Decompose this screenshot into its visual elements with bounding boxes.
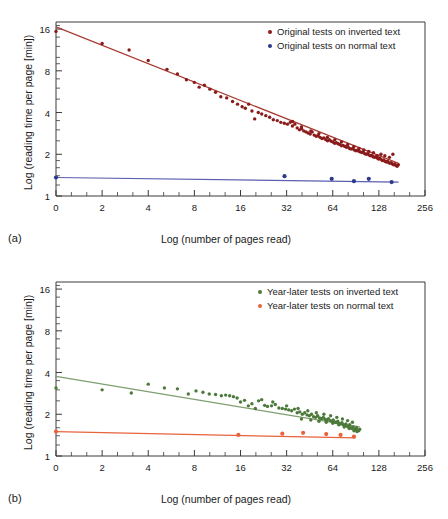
data-point <box>285 404 288 407</box>
legend-a: Original tests on inverted text Original… <box>268 25 400 53</box>
x-tick-label: 64 <box>327 462 338 473</box>
x-tick-label: 8 <box>192 462 197 473</box>
data-point <box>367 150 370 153</box>
panel-label-b: (b) <box>8 492 22 504</box>
data-point <box>203 83 206 86</box>
data-point <box>326 136 329 139</box>
data-point <box>254 407 257 410</box>
y-tick-label: 1 <box>45 451 50 462</box>
data-point <box>260 398 263 401</box>
data-point <box>376 154 379 157</box>
x-axis-title-b: Log (number of pages read) <box>36 493 416 505</box>
legend-marker-icon <box>268 30 272 34</box>
data-point <box>176 72 179 75</box>
data-point <box>283 122 286 125</box>
data-point <box>54 30 57 33</box>
data-point <box>351 421 354 424</box>
data-point <box>383 154 386 157</box>
data-point <box>214 91 217 94</box>
y-tick-label: 16 <box>39 24 50 35</box>
data-series <box>54 429 356 438</box>
data-point <box>357 147 360 150</box>
data-point <box>331 422 334 425</box>
data-point <box>338 433 342 437</box>
data-point <box>247 102 250 105</box>
data-point <box>330 177 334 181</box>
data-point <box>340 140 343 143</box>
data-point <box>301 431 305 435</box>
data-point <box>266 405 269 408</box>
legend-label: Year-later tests on normal text <box>267 299 393 313</box>
data-point <box>279 121 282 124</box>
data-point <box>224 393 227 396</box>
data-point <box>362 148 365 151</box>
data-point <box>127 48 130 51</box>
data-point <box>185 78 188 81</box>
y-tick-label: 8 <box>45 326 50 337</box>
y-tick-label: 1 <box>45 191 50 202</box>
data-point <box>293 407 296 410</box>
data-series <box>54 174 399 184</box>
data-point <box>260 112 263 115</box>
data-point <box>358 428 361 431</box>
data-point <box>220 394 223 397</box>
figure-container: 0248163264128256168421 Log (reading time… <box>0 0 448 519</box>
data-point <box>243 399 246 402</box>
data-point <box>346 419 349 422</box>
x-tick-label: 128 <box>371 462 387 473</box>
data-point <box>348 427 351 430</box>
data-point <box>287 408 290 411</box>
data-point <box>315 411 318 414</box>
x-tick-label: 4 <box>146 202 151 213</box>
data-point <box>54 386 57 389</box>
data-point <box>271 400 274 403</box>
legend-label: Year-later tests on inverted text <box>267 285 398 299</box>
data-point <box>355 430 358 433</box>
y-tick-label: 2 <box>45 409 50 420</box>
data-point <box>147 382 150 385</box>
x-tick-label: 4 <box>146 462 151 473</box>
legend-marker-icon <box>268 44 272 48</box>
data-point <box>300 417 303 420</box>
x-axis-title-a: Log (number of pages read) <box>36 233 416 245</box>
data-point <box>239 400 242 403</box>
data-point <box>367 177 371 181</box>
data-point <box>165 68 168 71</box>
x-tick-label: 0 <box>53 462 58 473</box>
data-point <box>208 392 211 395</box>
data-point <box>176 387 179 390</box>
data-point <box>293 122 296 125</box>
data-point <box>257 399 260 402</box>
data-point <box>309 129 312 132</box>
data-point <box>225 96 228 99</box>
data-point <box>282 174 286 178</box>
y-axis-title-b: Log (reading time per page [min]) <box>22 295 34 450</box>
data-point <box>231 100 234 103</box>
legend-item: Year-later tests on inverted text <box>258 285 398 299</box>
x-tick-label: 64 <box>327 202 338 213</box>
trend-line <box>56 432 355 438</box>
data-point <box>201 391 204 394</box>
data-point <box>291 120 294 123</box>
data-point <box>390 180 394 184</box>
data-point <box>296 407 299 410</box>
data-point <box>306 409 309 412</box>
x-tick-label: 256 <box>417 202 433 213</box>
data-point <box>194 389 197 392</box>
data-point <box>235 396 238 399</box>
data-point <box>341 417 344 420</box>
data-point <box>257 111 260 114</box>
data-point <box>348 423 351 426</box>
data-point <box>270 404 273 407</box>
x-tick-label: 32 <box>281 462 292 473</box>
x-tick-label: 16 <box>235 202 246 213</box>
x-tick-label: 256 <box>417 462 433 473</box>
data-point <box>352 429 355 432</box>
data-point <box>100 42 103 45</box>
y-tick-label: 2 <box>45 149 50 160</box>
data-point <box>309 418 312 421</box>
data-point <box>253 117 256 120</box>
x-tick-label: 32 <box>281 202 292 213</box>
data-point <box>219 95 222 98</box>
data-point <box>236 433 240 437</box>
